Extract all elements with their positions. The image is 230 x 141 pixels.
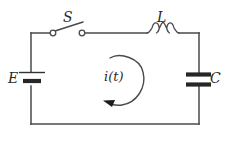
inductor-label: L bbox=[157, 10, 166, 24]
battery-symbol bbox=[19, 73, 45, 82]
circuit-diagram: S L E C i(t) bbox=[0, 0, 230, 141]
capacitor-symbol bbox=[186, 75, 211, 85]
battery-label: E bbox=[8, 71, 18, 85]
current-label: i(t) bbox=[104, 70, 124, 83]
switch-label: S bbox=[63, 10, 73, 24]
current-arrow-head bbox=[103, 100, 115, 107]
switch-terminal-right[interactable] bbox=[79, 30, 85, 36]
switch-terminal-left[interactable] bbox=[50, 30, 56, 36]
capacitor-label: C bbox=[210, 71, 221, 85]
